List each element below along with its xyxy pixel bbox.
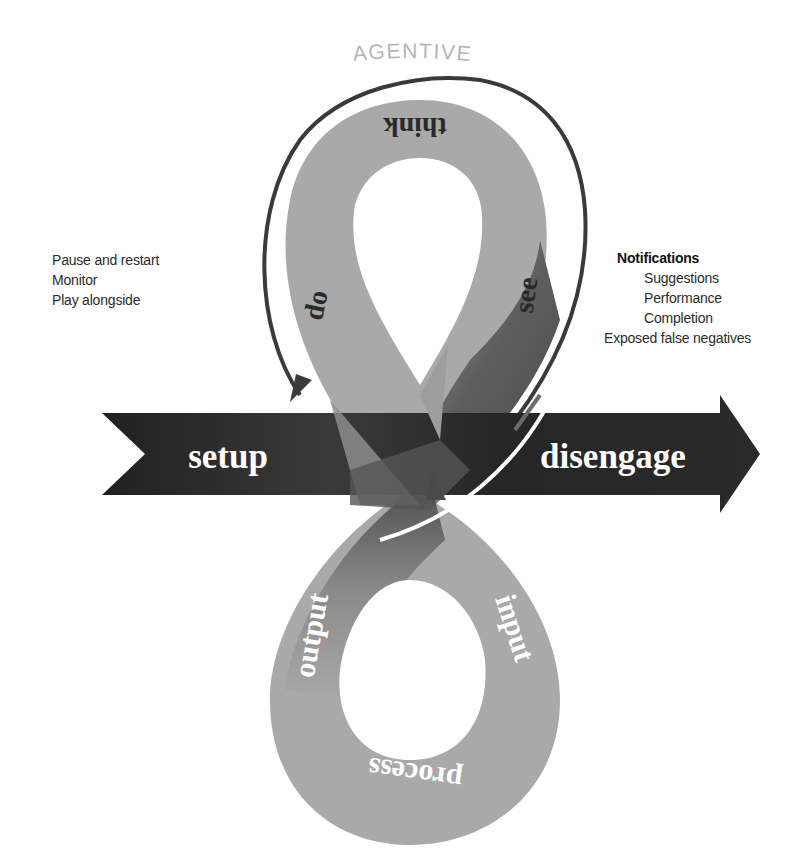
agentive-arrowhead-icon — [290, 374, 312, 402]
notifications-heading: Notifications — [617, 248, 751, 268]
agentive-loop-diagram: AGENTIVE setup disengage think do — [0, 0, 806, 865]
see-label: see — [508, 275, 544, 315]
setup-label: setup — [188, 437, 268, 476]
note-completion: Completion — [617, 308, 751, 328]
right-notes: Notifications Suggestions Performance Co… — [617, 248, 751, 348]
agentive-title: AGENTIVE — [352, 39, 474, 65]
think-label: think — [383, 112, 447, 143]
left-notes: Pause and restart Monitor Play alongside — [52, 250, 159, 310]
note-pause-restart: Pause and restart — [52, 250, 159, 270]
note-suggestions: Suggestions — [617, 268, 751, 288]
diagram-canvas: AGENTIVE setup disengage think do — [0, 0, 806, 865]
note-monitor: Monitor — [52, 270, 159, 290]
note-play-alongside: Play alongside — [52, 290, 159, 310]
do-label: do — [297, 287, 333, 322]
disengage-label: disengage — [540, 437, 686, 476]
note-exposed-false-negatives: Exposed false negatives — [604, 328, 751, 348]
note-performance: Performance — [617, 288, 751, 308]
